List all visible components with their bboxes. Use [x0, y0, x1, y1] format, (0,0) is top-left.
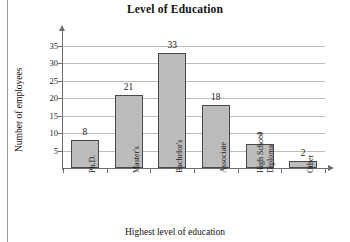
- y-tick-label: 10: [18, 128, 58, 138]
- bar-value-label: 33: [152, 40, 192, 50]
- gridline: [63, 63, 325, 64]
- y-axis-arrow-icon: [59, 25, 65, 31]
- x-tick-mark: [281, 168, 282, 173]
- x-axis-line: [63, 168, 329, 169]
- y-tick-label: 35: [18, 41, 58, 51]
- x-tick-mark: [238, 168, 239, 173]
- bar-value-label: 18: [196, 92, 236, 102]
- gridline: [63, 116, 325, 117]
- gridline: [63, 46, 325, 47]
- x-category-label: Bachelor's: [175, 140, 184, 173]
- y-tick-label: 20: [18, 93, 58, 103]
- x-category-label: Diploma: [266, 145, 275, 173]
- x-category-label: High School: [256, 133, 265, 173]
- y-tick-label: 25: [18, 76, 58, 86]
- y-tick-label: 15: [18, 111, 58, 121]
- chart-title: Level of Education: [0, 3, 350, 15]
- x-tick-mark: [325, 168, 326, 173]
- x-category-label: Ph.D.: [88, 155, 97, 173]
- bar-value-label: 2: [283, 148, 323, 158]
- bar-value-label: 21: [109, 82, 149, 92]
- y-tick-label: 30: [18, 58, 58, 68]
- gridline: [63, 98, 325, 99]
- bar-value-label: 8: [65, 127, 105, 137]
- chart-figure: Level of Education Number of employees H…: [0, 0, 350, 242]
- x-axis-arrow-icon: [328, 165, 334, 171]
- x-category-label: Other: [306, 155, 315, 173]
- x-category-label: Associate: [219, 142, 228, 173]
- x-tick-mark: [150, 168, 151, 173]
- y-tick-label: 5: [18, 146, 58, 156]
- x-tick-mark: [107, 168, 108, 173]
- x-category-label: Master's: [132, 146, 141, 173]
- gridline: [63, 81, 325, 82]
- page-border-line: [7, 0, 8, 242]
- x-tick-mark: [63, 168, 64, 173]
- x-axis-title: Highest level of education: [0, 227, 350, 237]
- x-tick-mark: [194, 168, 195, 173]
